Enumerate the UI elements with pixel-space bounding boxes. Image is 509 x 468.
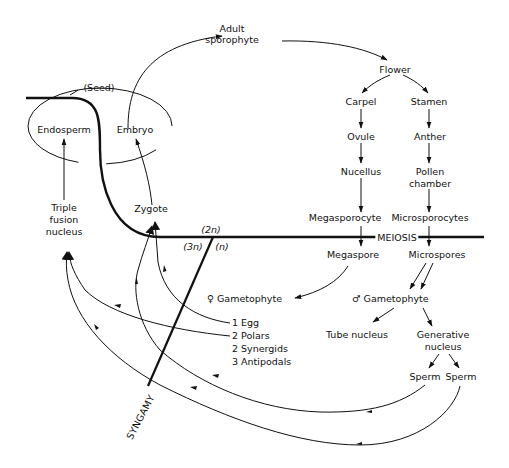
label-microsporocytes: Microsporocytes [391, 212, 468, 223]
label-sperm-1: Sperm [410, 371, 441, 382]
arrow-microspores-to-male-gametophyte-2 [421, 263, 433, 289]
label-tube-nucleus: Tube nucleus [326, 329, 388, 340]
arrow-megaspore-to-female-gametophyte [295, 266, 348, 298]
arrow-sperm1-to-zygote [136, 226, 425, 412]
label-sperm-2: Sperm [446, 371, 477, 382]
mid-arrow [366, 410, 372, 413]
arrow-generative-to-sperm1 [429, 354, 439, 368]
label-pollen-chamber: Pollen chamber [409, 166, 451, 190]
mid-arrow [114, 304, 121, 308]
label-male-gametophyte: ♂ Gametophyte [352, 293, 429, 306]
mid-arrow [190, 386, 197, 390]
label-female-gametophyte: ♀ Gametophyte [207, 293, 282, 306]
label-ovule: Ovule [347, 131, 375, 142]
label-triple-fusion-nucleus: Triple fusion nucleus [46, 202, 83, 238]
mid-arrow [135, 277, 138, 284]
label-carpel: Carpel [346, 96, 377, 107]
arrow-generative-to-sperm2 [449, 354, 459, 368]
arrow-flower-to-stamen [403, 75, 428, 93]
label-seed: (Seed) [83, 82, 114, 93]
label-megaspore: Megaspore [327, 249, 379, 260]
label-microspores: Microspores [409, 249, 466, 260]
label-polars: 2 Polars [232, 330, 270, 343]
label-ploidy-n: (n) [215, 241, 228, 252]
label-antipodals: 3 Antipodals [232, 356, 291, 369]
label-anther: Anther [414, 131, 446, 142]
label-stamen: Stamen [411, 96, 448, 107]
label-meiosis: MEIOSIS [375, 232, 418, 243]
arrow-adult-to-flower [282, 41, 387, 60]
label-generative-nucleus: Generative nucleus [417, 329, 470, 353]
arrow-gametophyte-to-tube [373, 308, 394, 322]
label-adult-sporophyte: Adult sporophyte [205, 23, 259, 45]
label-synergids: 2 Synergids [232, 343, 288, 356]
mid-arrow [212, 374, 219, 378]
arrow-zygote-to-embryo [136, 139, 152, 205]
male-symbol-icon: ♂ [352, 293, 361, 304]
female-symbol-icon: ♀ [207, 293, 214, 304]
label-zygote: Zygote [134, 203, 168, 214]
mid-arrow [94, 324, 99, 330]
arrow-embryo-to-adult [128, 36, 222, 128]
mid-arrow [163, 265, 167, 272]
label-egg: 1 Egg [232, 317, 259, 330]
label-ploidy-2n: (2n) [201, 224, 220, 235]
arrow-polars-to-triple-fusion [69, 252, 230, 336]
label-flower: Flower [379, 64, 410, 75]
arrow-microspores-to-male-gametophyte-1 [410, 263, 426, 289]
label-endosperm: Endosperm [37, 124, 91, 135]
arrow-gametophyte-to-generative [423, 308, 432, 326]
label-embryo: Embryo [117, 124, 154, 135]
label-megasporocyte: Megasporocyte [309, 212, 382, 223]
arrow-flower-to-carpel [362, 75, 390, 93]
label-nucellus: Nucellus [341, 166, 381, 177]
label-ploidy-3n: (3n) [183, 241, 202, 252]
